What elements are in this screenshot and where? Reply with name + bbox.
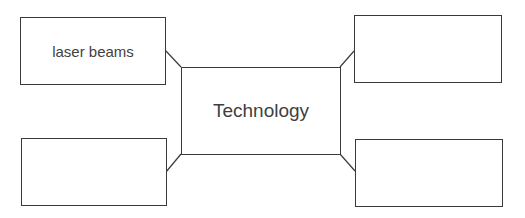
- connector-top-right: [340, 51, 354, 67]
- branch-box-bottom-left[interactable]: [21, 138, 167, 206]
- center-box[interactable]: Technology: [181, 67, 341, 155]
- branch-label-top-left: laser beams: [52, 43, 134, 60]
- center-label: Technology: [213, 100, 309, 122]
- branch-box-top-right[interactable]: [354, 15, 502, 83]
- branch-box-top-left[interactable]: laser beams: [20, 17, 166, 85]
- connector-top-left: [165, 50, 181, 67]
- branch-box-bottom-right[interactable]: [355, 139, 503, 207]
- connector-bottom-left: [166, 154, 181, 172]
- connector-bottom-right: [340, 154, 355, 171]
